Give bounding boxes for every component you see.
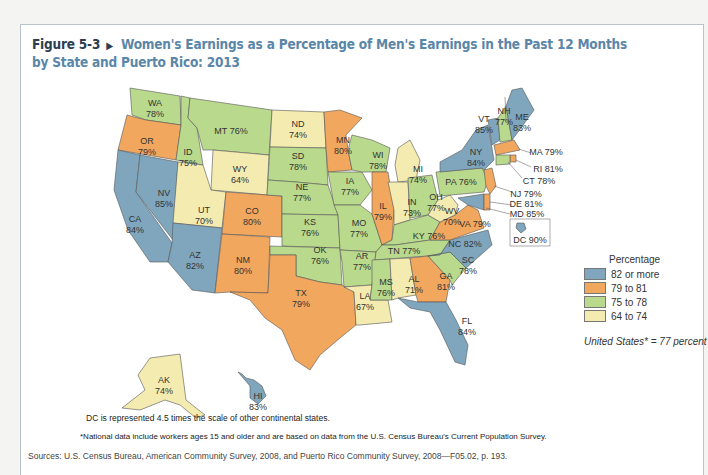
svg-text:76%: 76% [301,228,319,238]
svg-text:TX: TX [295,288,307,298]
svg-text:SC: SC [462,255,475,265]
svg-text:KS: KS [304,217,316,227]
legend-label: 75 to 78 [611,297,647,308]
svg-text:71%: 71% [405,285,423,295]
svg-text:SD: SD [292,151,305,161]
svg-text:OH: OH [429,192,443,202]
svg-text:70%: 70% [443,217,461,227]
state-MA [494,140,520,155]
svg-text:HI: HI [254,391,263,401]
svg-text:WY: WY [233,164,248,174]
svg-text:TN 77%: TN 77% [388,246,421,256]
svg-text:78%: 78% [369,161,387,171]
svg-text:OK: OK [313,245,326,255]
svg-text:AK: AK [158,375,170,385]
svg-text:VT: VT [478,114,490,124]
svg-text:76%: 76% [311,256,329,266]
svg-text:NM: NM [236,255,250,265]
svg-text:78%: 78% [146,109,164,119]
national-average-note: United States* = 77 percent [584,336,707,347]
svg-text:83%: 83% [249,402,267,412]
svg-text:80%: 80% [243,217,261,227]
svg-text:82%: 82% [186,261,204,271]
svg-text:67%: 67% [356,302,374,312]
svg-text:NE: NE [296,182,309,192]
svg-text:NV: NV [158,188,171,198]
svg-text:85%: 85% [155,199,173,209]
svg-text:79%: 79% [374,212,392,222]
svg-text:KY 76%: KY 76% [413,231,445,241]
svg-text:NY: NY [470,147,483,157]
svg-text:77%: 77% [341,187,359,197]
legend-item: 75 to 78 [584,295,660,309]
svg-text:85%: 85% [475,125,493,135]
svg-text:LA: LA [359,291,370,301]
state-DE [484,194,490,210]
svg-text:CA: CA [129,214,142,224]
legend-swatch [584,296,606,308]
legend-swatch [584,310,606,322]
legend-item: 64 to 74 [584,309,660,323]
svg-text:PA 76%: PA 76% [445,177,476,187]
legend-swatch [584,268,606,280]
svg-text:80%: 80% [234,266,252,276]
legend: Percentage 82 or more 79 to 81 75 to 78 … [584,254,660,323]
state-NJ [484,168,496,194]
svg-text:79%: 79% [138,147,156,157]
svg-text:AZ: AZ [189,250,201,260]
state-CT [496,155,510,165]
svg-text:74%: 74% [155,386,173,396]
dc-scale-note: DC is represented 4.5 times the scale of… [86,413,330,423]
svg-text:DC 90%: DC 90% [513,235,547,245]
legend-swatch [584,282,606,294]
svg-text:79%: 79% [292,299,310,309]
svg-text:DE 81%: DE 81% [509,199,542,209]
svg-text:ND: ND [292,119,305,129]
svg-text:74%: 74% [289,130,307,140]
svg-text:GA: GA [439,271,452,281]
svg-text:73%: 73% [403,208,421,218]
svg-text:CT 78%: CT 78% [523,176,555,186]
svg-text:77%: 77% [353,262,371,272]
svg-text:NH: NH [498,106,511,116]
svg-text:AR: AR [356,251,369,261]
state-ND [270,110,326,148]
svg-text:78%: 78% [459,266,477,276]
svg-text:78%: 78% [289,162,307,172]
national-data-footnote: *National data include workers ages 15 a… [80,432,547,441]
svg-text:77%: 77% [293,193,311,203]
svg-text:UT: UT [198,205,210,215]
svg-text:OR: OR [140,136,154,146]
svg-text:IL: IL [379,201,387,211]
svg-text:IN: IN [408,197,417,207]
svg-text:83%: 83% [513,123,531,133]
legend-title: Percentage [609,254,660,265]
svg-text:MO: MO [352,218,367,228]
legend-label: 79 to 81 [611,283,647,294]
svg-text:FL: FL [462,316,473,326]
svg-text:64%: 64% [231,175,249,185]
svg-text:MA 79%: MA 79% [529,147,563,157]
legend-item: 79 to 81 [584,281,660,295]
legend-label: 64 to 74 [611,311,647,322]
svg-text:AL: AL [408,274,419,284]
svg-text:WA: WA [148,98,162,108]
svg-text:ME: ME [515,112,529,122]
svg-text:IA: IA [346,176,355,186]
state-RI [510,155,516,162]
svg-text:NC 82%: NC 82% [448,239,482,249]
legend-item: 82 or more [584,267,660,281]
svg-text:MD 85%: MD 85% [510,209,545,219]
svg-text:CO: CO [245,206,259,216]
svg-text:77%: 77% [350,229,368,239]
svg-text:MI: MI [413,164,423,174]
svg-text:77%: 77% [427,203,445,213]
svg-text:75%: 75% [179,158,197,168]
svg-text:76%: 76% [377,288,395,298]
svg-text:MN: MN [336,135,350,145]
svg-text:84%: 84% [126,225,144,235]
legend-label: 82 or more [611,269,659,280]
svg-text:81%: 81% [437,282,455,292]
svg-text:80%: 80% [334,146,352,156]
